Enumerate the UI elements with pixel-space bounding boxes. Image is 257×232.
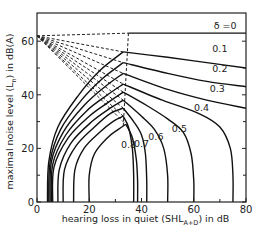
series-line bbox=[50, 73, 123, 202]
dashed-line bbox=[37, 36, 123, 92]
curve-label: 0.5 bbox=[172, 123, 187, 134]
chart: 0204060800204060 δ =00.10.20.30.40.50.60… bbox=[0, 0, 257, 232]
x-tick-label: 0 bbox=[34, 204, 40, 215]
curve-label: 0.6 bbox=[148, 131, 163, 142]
dashed-line bbox=[37, 36, 123, 63]
x-axis-title-sub: A+D bbox=[183, 219, 198, 227]
curve-label: 0.7 bbox=[134, 138, 149, 149]
series-line bbox=[74, 116, 124, 202]
y-tick-label: 40 bbox=[21, 90, 34, 101]
dashed-line bbox=[37, 36, 123, 84]
curve-labels: δ =00.10.20.30.40.50.60.70.8 bbox=[121, 20, 237, 150]
dashed-line bbox=[37, 33, 128, 36]
curve-label: 0.3 bbox=[210, 83, 225, 94]
curve-label: 0.4 bbox=[194, 102, 209, 113]
series-line bbox=[126, 124, 138, 202]
y-tick-label: 20 bbox=[21, 143, 34, 154]
dashed-line bbox=[37, 36, 123, 116]
series-line bbox=[123, 52, 246, 68]
series-line bbox=[123, 63, 246, 87]
y-tick-label: 0 bbox=[28, 197, 34, 208]
dashed-line bbox=[37, 36, 126, 124]
y-axis-title: maximal noise level (Ln) in dB(A) bbox=[4, 34, 18, 190]
curve-label: 0.2 bbox=[212, 63, 227, 74]
y-axis-title-main: maximal noise level (L bbox=[4, 82, 15, 190]
curve-label: δ =0 bbox=[214, 20, 237, 31]
x-axis-title: hearing loss in quiet (SHLA+D) in dB bbox=[62, 213, 230, 227]
y-axis-title-tail: ) in dB(A) bbox=[4, 34, 15, 79]
x-axis-title-main: hearing loss in quiet (SHL bbox=[62, 213, 185, 224]
y-tick-label: 60 bbox=[21, 36, 34, 47]
x-tick-label: 80 bbox=[240, 204, 253, 215]
series-line bbox=[49, 63, 123, 202]
dashed-line bbox=[37, 36, 123, 74]
x-axis-title-tail: ) in dB bbox=[198, 213, 229, 224]
curve-label: 0.1 bbox=[212, 43, 227, 54]
curve-label: 0.8 bbox=[121, 139, 136, 150]
series-line bbox=[89, 124, 126, 202]
